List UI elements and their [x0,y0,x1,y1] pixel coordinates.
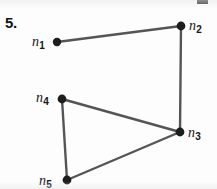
node-label-base-n2: n [189,18,196,33]
node-label-n3: n3 [188,126,201,142]
node-label-subscript-n4: 4 [43,96,49,107]
node-label-subscript-n1: 1 [39,40,45,51]
graph-edge-n5-n3 [67,132,180,180]
node-label-base-n5: n [39,173,46,188]
node-label-base-n3: n [188,125,195,140]
node-label-n1: n1 [32,35,45,51]
graph-node-n5 [63,176,72,185]
graph-edge-n4-n5 [62,99,67,180]
graph-edge-n4-n3 [62,99,180,132]
edge-layer [57,26,181,180]
graph-node-n1 [53,38,61,46]
node-label-base-n4: n [36,90,43,105]
graph-node-n4 [58,95,67,104]
node-label-subscript-n2: 2 [196,24,202,35]
node-label-subscript-n3: 3 [195,131,201,142]
node-label-n5: n5 [39,174,52,189]
problem-number-label: 5. [5,15,17,30]
graph-figure: 5. n1n2n3n4n5 [0,0,217,189]
graph-node-n2 [177,22,186,31]
scan-artifact-mark [197,0,208,4]
node-label-base-n1: n [32,34,39,49]
node-label-subscript-n5: 5 [46,179,52,189]
graph-node-n3 [176,128,185,137]
node-label-n4: n4 [36,91,49,107]
node-label-n2: n2 [189,19,202,35]
graph-canvas [0,0,217,189]
graph-edge-n2-n3 [180,26,181,132]
graph-edge-n1-n2 [57,26,181,42]
